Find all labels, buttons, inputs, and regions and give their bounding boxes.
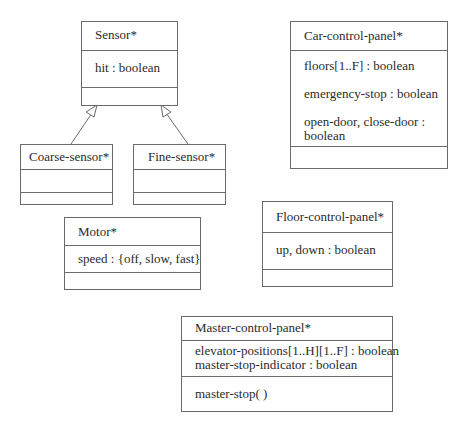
attribute: open-door, close-door : boolean [304, 115, 439, 143]
class-floor-control-panel[interactable]: Floor-control-panel* up, down : boolean [262, 201, 393, 287]
class-name-section: Motor* [65, 218, 200, 245]
operations-section [21, 192, 112, 205]
operation: master-stop( ) [195, 387, 267, 401]
class-name: Car-control-panel* [304, 29, 403, 43]
attribute: emergency-stop : boolean [304, 87, 438, 101]
generalization-arrowhead-icon [86, 105, 97, 117]
class-name: Coarse-sensor* [29, 150, 109, 164]
class-name-section: Sensor* [82, 22, 177, 50]
class-fine-sensor[interactable]: Fine-sensor* [133, 144, 226, 205]
operations-section [82, 87, 177, 106]
class-name-section: Floor-control-panel* [263, 202, 392, 232]
operations-section: master-stop( ) [182, 376, 392, 412]
fine-to-sensor-line [166, 113, 188, 144]
attribute: up, down : boolean [276, 243, 376, 257]
attributes-section: speed : {off, slow, fast} [65, 245, 200, 272]
operations-section [263, 269, 392, 287]
class-coarse-sensor[interactable]: Coarse-sensor* [20, 144, 113, 205]
class-name: Fine-sensor* [148, 150, 215, 164]
attributes-section: floors[1..F] : boolean emergency-stop : … [291, 50, 447, 146]
class-sensor[interactable]: Sensor* hit : boolean [81, 21, 178, 106]
class-name-section: Car-control-panel* [291, 22, 447, 50]
class-name: Sensor* [95, 28, 137, 42]
attributes-section: elevator-positions[1..H][1..F] : boolean… [182, 340, 392, 376]
attributes-section [134, 169, 225, 192]
attributes-section [21, 169, 112, 192]
attribute: master-stop-indicator : boolean [195, 358, 357, 372]
class-name: Motor* [78, 225, 117, 239]
attribute: elevator-positions[1..H][1..F] : boolean [195, 344, 399, 358]
generalization-arrowhead-icon [161, 105, 171, 117]
attributes-section: hit : boolean [82, 50, 177, 87]
operations-section [291, 146, 447, 169]
class-name: Master-control-panel* [195, 321, 311, 335]
operations-section [134, 192, 225, 205]
coarse-to-sensor-line [71, 113, 92, 144]
attribute: speed : {off, slow, fast} [78, 252, 201, 266]
class-motor[interactable]: Motor* speed : {off, slow, fast} [64, 217, 201, 290]
class-name-section: Master-control-panel* [182, 317, 392, 340]
class-name-section: Fine-sensor* [134, 145, 225, 169]
class-car-control-panel[interactable]: Car-control-panel* floors[1..F] : boolea… [290, 21, 448, 169]
class-name: Floor-control-panel* [276, 210, 384, 224]
attribute: hit : boolean [95, 61, 160, 75]
class-master-control-panel[interactable]: Master-control-panel* elevator-positions… [181, 316, 393, 412]
class-name-section: Coarse-sensor* [21, 145, 112, 169]
attribute: floors[1..F] : boolean [304, 59, 414, 73]
operations-section [65, 272, 200, 290]
attributes-section: up, down : boolean [263, 232, 392, 269]
